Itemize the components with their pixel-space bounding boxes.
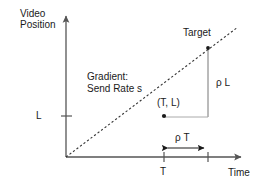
x-tick-label-T: T xyxy=(160,166,166,177)
gradient-label-line1: Gradient: xyxy=(87,71,128,82)
rho-l-label: ρ L xyxy=(216,77,230,88)
target-label: Target xyxy=(183,27,211,38)
x-axis-label: Time xyxy=(228,167,250,178)
target-point-marker xyxy=(206,46,210,50)
diagram-canvas: VideoPosition Time Target Gradient: Send… xyxy=(0,0,272,186)
gradient-label-line2: Send Rate s xyxy=(87,83,142,94)
y-axis-label-line2: Position xyxy=(20,19,56,30)
tl-point-label: (T, L) xyxy=(157,97,180,108)
rho-t-label: ρ T xyxy=(175,132,190,143)
y-axis-label-line1: Video xyxy=(20,8,45,19)
tl-point-marker xyxy=(162,114,166,118)
y-tick-label-L: L xyxy=(36,110,42,121)
y-axis-label: VideoPosition xyxy=(20,8,56,30)
